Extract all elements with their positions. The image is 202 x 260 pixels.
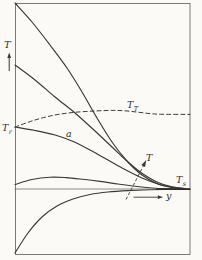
static-temperature-label: Ts [176, 170, 186, 186]
total-temperature-dashed [15, 110, 190, 127]
abscissa-label: y [166, 191, 171, 201]
ordinate-label: T [4, 40, 11, 50]
adiabatic-curve-label: a [66, 129, 72, 139]
recovery-main: T [2, 122, 8, 133]
total-temperature-label: TT [127, 95, 138, 111]
abscissa-arrow-icon [134, 195, 164, 199]
total-sub: T [134, 105, 138, 113]
profile-cold-wall [15, 189, 190, 253]
static-sub: s [183, 180, 186, 188]
recovery-sub: r [9, 128, 12, 136]
static-main: T [176, 174, 182, 185]
profile-pointer-label: T [146, 153, 152, 163]
figure-temperature-profiles: T Tr a TT T Ts y [0, 0, 202, 260]
total-main: T [127, 99, 133, 110]
curve-group [15, 3, 190, 253]
ordinate-arrow-icon [7, 53, 11, 72]
profile-hot-wall-1 [15, 3, 185, 189]
recovery-temperature-label: Tr [2, 118, 11, 134]
plot-canvas [0, 0, 202, 260]
profile-hot-wall-2 [15, 65, 185, 189]
